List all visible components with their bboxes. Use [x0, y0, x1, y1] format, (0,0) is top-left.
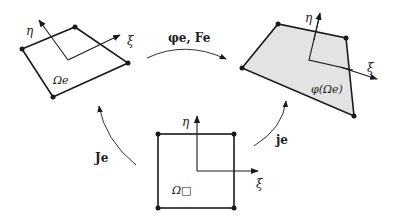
- phi-omega-label: φ(Ωe): [311, 83, 343, 96]
- eta-label: η: [182, 115, 190, 129]
- xi-label: ξ: [127, 34, 135, 48]
- deformed-element: η ξ φ(Ωe): [240, 11, 378, 119]
- xi-label: ξ: [256, 177, 264, 191]
- omega-square-label: Ω□: [171, 184, 192, 197]
- j-label: je: [275, 133, 288, 147]
- physical-element: η ξ Ωe: [20, 20, 136, 100]
- eta-label: η: [305, 11, 313, 25]
- omega-e-label: Ωe: [52, 74, 69, 87]
- xi-label: ξ: [367, 61, 375, 75]
- eta-label: η: [26, 24, 34, 38]
- xi-axis-arrow: [68, 35, 120, 60]
- mapping-diagram: η ξ Ωe η ξ φ(Ωe) η ξ Ω□ φe, Fe Je: [0, 0, 395, 222]
- phi-mapping-arrow: [147, 49, 226, 59]
- J-label: Je: [94, 151, 109, 165]
- reference-element: η ξ Ω□: [156, 115, 265, 211]
- phi-F-label: φe, Fe: [168, 31, 211, 45]
